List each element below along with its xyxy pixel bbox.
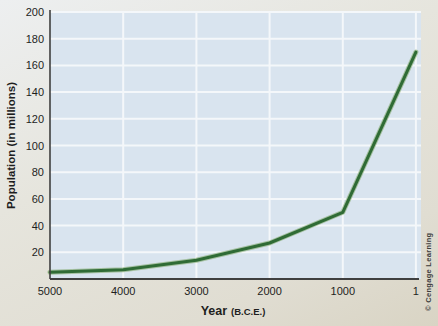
x-axis-title: Year(B.C.E.) [201,304,266,318]
y-tick-label: 140 [26,86,44,98]
y-tick-label: 80 [32,166,44,178]
x-tick-label: 4000 [111,285,135,297]
copyright-credit: © Cengage Learning [424,232,433,311]
chart-figure: 2040608010012014016018020050004000300020… [0,0,438,326]
x-tick-label: 2000 [257,285,281,297]
y-tick-label: 200 [26,6,44,18]
x-tick-label: 1000 [331,285,355,297]
y-tick-label: 60 [32,193,44,205]
y-tick-label: 160 [26,59,44,71]
x-tick-label: 3000 [184,285,208,297]
x-tick-label: 1 [413,285,419,297]
y-tick-label: 120 [26,113,44,125]
y-tick-label: 100 [26,140,44,152]
credit-text: © Cengage Learning [424,232,433,311]
y-tick-label: 180 [26,33,44,45]
population-line-chart: 2040608010012014016018020050004000300020… [0,0,438,326]
y-tick-label: 20 [32,246,44,258]
x-tick-label: 5000 [38,285,62,297]
y-tick-label: 40 [32,220,44,232]
y-axis-title: Population (in millions) [5,82,17,209]
